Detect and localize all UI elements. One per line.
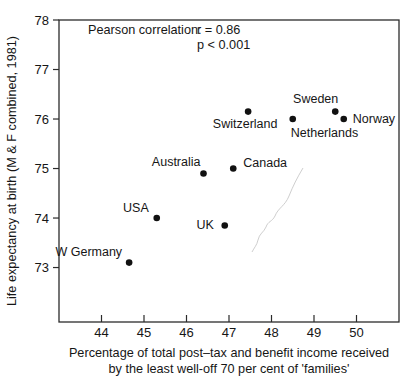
point-label-uk: UK <box>196 218 214 232</box>
y-axis: 737475767778 <box>35 13 59 276</box>
data-point-switzerland <box>245 108 252 115</box>
data-point-norway <box>340 116 347 123</box>
data-point-netherlands <box>289 116 296 123</box>
y-axis-title: Life expectancy at birth (M & F combined… <box>5 36 19 306</box>
x-tick-label-45: 45 <box>137 325 151 340</box>
point-label-sweden: Sweden <box>293 92 338 106</box>
data-point-sweden <box>332 108 339 115</box>
y-tick-label-76: 76 <box>35 112 49 127</box>
data-point-uk <box>221 222 228 229</box>
point-label-norway: Norway <box>353 112 396 126</box>
annotation-r-value: r = 0.86 <box>197 23 240 37</box>
x-tick-label-48: 48 <box>264 325 278 340</box>
x-tick-label-49: 49 <box>307 325 321 340</box>
annotation-p-value: p < 0.001 <box>197 38 250 52</box>
scan-crease-artifact <box>252 168 303 252</box>
point-label-canada: Canada <box>243 156 287 170</box>
point-label-switzerland: Switzerland <box>213 117 278 131</box>
point-label-usa: USA <box>123 201 149 215</box>
x-tick-label-50: 50 <box>349 325 363 340</box>
x-tick-label-47: 47 <box>222 325 236 340</box>
y-tick-label-77: 77 <box>35 62 49 77</box>
point-label-australia: Australia <box>152 155 201 169</box>
data-points: W GermanyUSAUKAustraliaCanadaSwitzerland… <box>55 92 395 266</box>
data-point-canada <box>230 165 237 172</box>
annotation-pearson-label: Pearson correlation: <box>88 23 202 37</box>
y-tick-label-73: 73 <box>35 260 49 275</box>
x-axis-title-line2: by the least well-off 70 per cent of 'fa… <box>109 362 350 376</box>
x-tick-label-46: 46 <box>179 325 193 340</box>
point-label-w-germany: W Germany <box>55 245 122 259</box>
data-point-usa <box>153 215 160 222</box>
x-axis-title-line1: Percentage of total post–tax and benefit… <box>69 346 389 360</box>
x-axis: 44454647484950 <box>94 315 363 340</box>
point-label-netherlands: Netherlands <box>291 126 358 140</box>
y-tick-label-78: 78 <box>35 13 49 28</box>
plot-frame <box>59 20 399 322</box>
y-tick-label-74: 74 <box>35 211 49 226</box>
scatter-plot-svg: Pearson correlation: r = 0.86 p < 0.001 … <box>0 0 410 388</box>
x-tick-label-44: 44 <box>94 325 108 340</box>
y-tick-label-75: 75 <box>35 161 49 176</box>
figure-canvas: Pearson correlation: r = 0.86 p < 0.001 … <box>0 0 410 388</box>
data-point-australia <box>200 170 207 177</box>
data-point-w-germany <box>126 259 133 266</box>
